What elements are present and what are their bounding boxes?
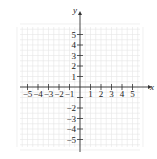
y-tick-label: 4 xyxy=(72,40,77,50)
y-tick-label: 5 xyxy=(72,30,77,40)
x-tick-label: −1 xyxy=(65,89,75,99)
y-tick-label: −4 xyxy=(66,124,76,134)
y-tick-label: −3 xyxy=(66,114,76,124)
y-axis-arrow-icon xyxy=(78,11,82,15)
x-tick-label: 2 xyxy=(99,89,104,99)
y-axis-label: y xyxy=(72,5,77,15)
x-tick-label: 1 xyxy=(88,89,93,99)
x-tick-label: −4 xyxy=(33,89,43,99)
x-tick-label: 3 xyxy=(109,89,114,99)
x-axis-label: x xyxy=(149,82,154,92)
y-tick-label: −2 xyxy=(66,103,76,113)
y-tick-label: −5 xyxy=(66,135,76,145)
x-tick-label: −2 xyxy=(54,89,64,99)
x-tick-label: −3 xyxy=(44,89,54,99)
x-tick-label: −5 xyxy=(23,89,33,99)
y-tick-label: 1 xyxy=(72,72,77,82)
y-tick-label: 3 xyxy=(72,51,77,61)
y-tick-label: 2 xyxy=(72,61,77,71)
x-tick-label: 5 xyxy=(130,89,135,99)
x-tick-label: 4 xyxy=(120,89,125,99)
coordinate-plane: −5−4−3−2−11234554321−2−3−4−5 x y xyxy=(0,0,157,159)
